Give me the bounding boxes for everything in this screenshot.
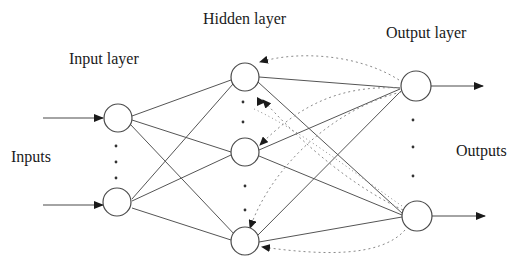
feedback-connections	[250, 56, 405, 253]
feedback-out2-hidden3	[262, 230, 405, 253]
feedback-out2-hidden1	[263, 100, 403, 210]
output-ellipsis-dot	[412, 119, 415, 122]
hidden-layer-label: Hidden layer	[203, 10, 286, 28]
output-node-2	[402, 201, 432, 231]
input-hidden-connections	[130, 80, 236, 240]
ellipsis-dots	[115, 101, 415, 212]
feedback-out1-hidden1	[260, 56, 399, 80]
input-arrows	[43, 118, 103, 205]
input-node-1	[104, 104, 132, 132]
feedback-arrowheads	[257, 97, 266, 106]
input-ellipsis-dot	[115, 161, 118, 164]
input-node-2	[103, 188, 131, 216]
output-layer-nodes	[401, 71, 432, 231]
output-layer-label: Output layer	[386, 24, 466, 42]
inputs-label: Inputs	[11, 148, 51, 166]
outputs-label: Outputs	[456, 142, 507, 160]
hidden-layer-nodes	[231, 63, 259, 255]
hidden-ellipsis-dot	[242, 101, 245, 104]
output-node-1	[401, 71, 431, 101]
hidden-ellipsis-dot	[244, 185, 247, 188]
neural-network-diagram: Input layer Hidden layer Output layer In…	[0, 0, 527, 270]
input-layer-nodes	[103, 104, 132, 216]
arrowhead-hidden1-lower	[257, 97, 266, 106]
input-ellipsis-dot	[115, 177, 118, 180]
hidden-ellipsis-dot	[242, 121, 245, 124]
hidden-output-connections	[258, 77, 403, 242]
feedback-out1-hidden2	[260, 88, 400, 145]
hidden-ellipsis-dot	[244, 209, 247, 212]
input-ellipsis-dot	[115, 145, 118, 148]
output-ellipsis-dot	[412, 175, 415, 178]
output-ellipsis-dot	[412, 146, 415, 149]
input-layer-label: Input layer	[69, 50, 139, 68]
feedback-out2-hidden1-trace	[252, 108, 402, 206]
hidden-node-3	[231, 227, 259, 255]
feedback-out1-hidden3	[250, 92, 401, 228]
hidden-node-2	[231, 138, 259, 166]
hidden-node-1	[231, 63, 259, 91]
